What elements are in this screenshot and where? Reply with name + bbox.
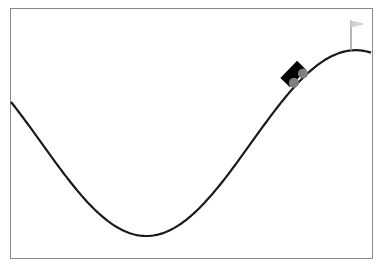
- mountain-terrain: [11, 50, 371, 236]
- game-canvas: [0, 0, 382, 270]
- car: [280, 61, 310, 91]
- goal-flag: [351, 20, 365, 50]
- flag-icon: [351, 20, 365, 27]
